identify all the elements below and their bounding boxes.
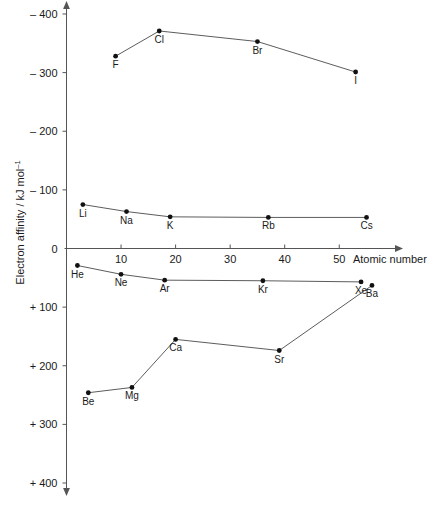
data-point-Li[interactable]	[80, 202, 85, 207]
series-polyline	[116, 31, 356, 72]
data-point-Xe[interactable]	[359, 280, 364, 285]
series-alkaline-earth-metals: BeMgCaSrBa	[82, 283, 378, 407]
data-point-label-Na: Na	[120, 215, 133, 226]
data-point-label-Cl: Cl	[155, 34, 164, 45]
x-tick-label: 10	[115, 253, 127, 265]
data-point-Cs[interactable]	[364, 215, 369, 220]
data-point-I[interactable]	[353, 70, 358, 75]
data-point-Ne[interactable]	[119, 272, 124, 277]
data-point-Ar[interactable]	[162, 278, 167, 283]
data-point-label-Ba: Ba	[366, 288, 379, 299]
data-point-label-He: He	[71, 269, 84, 280]
data-point-label-Ne: Ne	[115, 277, 128, 288]
data-point-Sr[interactable]	[277, 348, 282, 353]
x-axis-ticks: 1020304050	[115, 245, 345, 265]
data-point-label-Br: Br	[252, 45, 263, 56]
axes-group	[63, 1, 403, 496]
series-polyline	[88, 285, 372, 392]
data-point-label-Be: Be	[82, 396, 95, 407]
y-tick-label: – 200	[30, 125, 58, 137]
y-tick-label: – 100	[30, 184, 58, 196]
plot-area: – 400– 300– 200– 1000+ 100+ 200+ 300+ 40…	[0, 0, 437, 528]
data-point-label-F: F	[113, 59, 119, 70]
y-axis-ticks: – 400– 300– 200– 1000+ 100+ 200+ 300+ 40…	[30, 8, 67, 489]
series-alkali-metals: LiNaKRbCs	[79, 202, 373, 231]
series-halogens: FClBrI	[113, 29, 358, 86]
x-tick-label: 50	[333, 253, 345, 265]
x-axis-title: Atomic number	[353, 253, 427, 265]
data-point-Br[interactable]	[255, 39, 260, 44]
data-point-Na[interactable]	[124, 209, 129, 214]
data-point-Be[interactable]	[86, 390, 91, 395]
data-point-label-Kr: Kr	[258, 284, 269, 295]
y-tick-label: + 200	[30, 360, 58, 372]
x-tick-label: 30	[224, 253, 236, 265]
y-tick-label: – 300	[30, 67, 58, 79]
data-point-Cl[interactable]	[157, 29, 162, 34]
data-point-label-Sr: Sr	[274, 354, 285, 365]
y-axis-title: Electron affinity / kJ mol–1	[13, 160, 26, 284]
data-point-label-Ca: Ca	[169, 342, 182, 353]
data-point-F[interactable]	[113, 54, 118, 59]
data-point-label-Mg: Mg	[125, 390, 139, 401]
y-axis-arrow-top-icon	[63, 1, 70, 9]
data-point-label-Li: Li	[79, 208, 87, 219]
y-tick-label: + 400	[30, 477, 58, 489]
data-point-Kr[interactable]	[260, 278, 265, 283]
data-point-He[interactable]	[75, 263, 80, 268]
x-tick-label: 40	[279, 253, 291, 265]
x-axis-arrow-icon	[395, 245, 403, 252]
y-tick-label: 0	[51, 243, 57, 255]
x-tick-label: 20	[169, 253, 181, 265]
series-noble-gases: HeNeArKrXe	[71, 263, 368, 296]
data-point-Ca[interactable]	[173, 337, 178, 342]
data-point-label-Cs: Cs	[360, 220, 372, 231]
electron-affinity-chart: – 400– 300– 200– 1000+ 100+ 200+ 300+ 40…	[0, 0, 437, 528]
y-tick-label: + 300	[30, 418, 58, 430]
data-point-K[interactable]	[168, 214, 173, 219]
data-point-Rb[interactable]	[266, 215, 271, 220]
y-tick-label: – 400	[30, 8, 58, 20]
data-point-label-K: K	[167, 220, 174, 231]
data-point-Ba[interactable]	[370, 283, 375, 288]
data-point-label-Ar: Ar	[160, 283, 171, 294]
data-point-label-Rb: Rb	[262, 220, 275, 231]
data-point-label-I: I	[354, 75, 357, 86]
y-tick-label: + 100	[30, 301, 58, 313]
data-series-group: FClBrILiNaKRbCsHeNeArKrXeBeMgCaSrBa	[71, 29, 379, 407]
y-axis-arrow-bottom-icon	[63, 488, 70, 496]
data-point-Mg[interactable]	[130, 385, 135, 390]
